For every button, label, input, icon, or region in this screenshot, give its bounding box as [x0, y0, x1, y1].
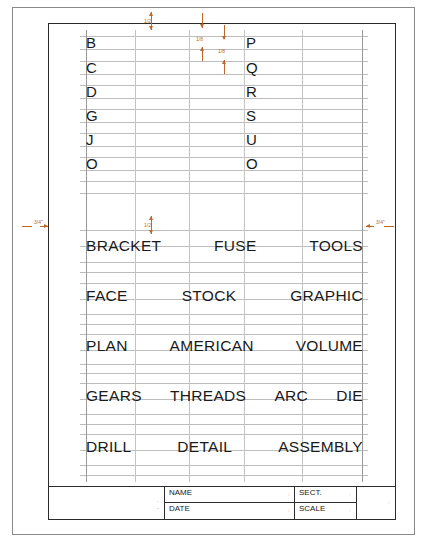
single-letter: C [86, 60, 97, 75]
guideline [80, 424, 368, 425]
guideline [80, 109, 368, 110]
guideline [80, 283, 368, 284]
practice-word: ARC [274, 388, 308, 404]
practice-word: AMERICAN [170, 338, 254, 354]
vertical-guide [362, 30, 363, 482]
practice-word: THREADS [170, 388, 246, 404]
dimension-label: 1/8 [218, 49, 225, 54]
title-block-divider [164, 502, 356, 503]
guideline [80, 230, 368, 231]
guideline [80, 181, 368, 182]
guideline [80, 262, 368, 263]
guideline [80, 122, 368, 123]
guideline [80, 334, 368, 335]
practice-word: PLAN [86, 338, 128, 354]
guideline [80, 373, 368, 374]
practice-word: ASSEMBLY [278, 439, 363, 455]
practice-word: TOOLS [309, 238, 363, 254]
guideline [80, 85, 368, 86]
guideline [80, 324, 368, 325]
word-row: FACESTOCKGRAPHIC [86, 288, 363, 304]
practice-word: DIE [336, 388, 363, 404]
practice-word: GRAPHIC [290, 288, 363, 304]
name-label: NAME [169, 488, 192, 497]
guideline [80, 272, 368, 273]
single-letter: P [246, 35, 256, 50]
dimension-label: 1/8 [196, 37, 203, 42]
guideline [80, 465, 368, 466]
word-row: PLANAMERICANVOLUME [86, 338, 363, 354]
dimension-label: 1/2 [144, 223, 151, 228]
date-field[interactable]: DATE [164, 503, 294, 519]
sect-label: SECT. [299, 488, 322, 497]
practice-word: DETAIL [177, 439, 232, 455]
dimension-label: 3/4" [34, 220, 43, 225]
single-letter: G [86, 108, 98, 123]
name-field[interactable]: NAME [164, 487, 294, 503]
title-block-blank-left [48, 487, 164, 519]
guideline [80, 98, 368, 99]
guideline [80, 193, 368, 194]
single-letter: O [246, 156, 258, 171]
guideline [80, 146, 368, 147]
practice-word: STOCK [182, 288, 237, 304]
dimension-label: 3/4" [376, 220, 385, 225]
word-row: GEARSTHREADSARCDIE [86, 388, 363, 404]
vertical-guide [302, 30, 303, 482]
guideline [80, 383, 368, 384]
guideline [80, 74, 368, 75]
single-letter: R [246, 84, 257, 99]
single-letter: D [86, 84, 97, 99]
single-letter: Q [246, 60, 258, 75]
practice-word: DRILL [86, 439, 131, 455]
vertical-guide [244, 30, 245, 482]
vertical-guide [135, 30, 136, 482]
scale-field[interactable]: SCALE [294, 503, 356, 519]
practice-word: GEARS [86, 388, 142, 404]
single-letter: J [86, 132, 94, 147]
guideline [80, 414, 368, 415]
word-row: BRACKETFUSETOOLS [86, 238, 363, 254]
title-block: . - NAME DATE : : SECT. SCALE : : : [48, 486, 396, 520]
scale-label: SCALE [299, 504, 325, 513]
single-letter: B [86, 35, 96, 50]
practice-word: BRACKET [86, 238, 161, 254]
guideline [80, 170, 368, 171]
single-letter: O [86, 156, 98, 171]
word-row: DRILLDETAILASSEMBLY [86, 439, 363, 455]
title-block-blank-right [356, 487, 396, 519]
guideline [80, 314, 368, 315]
practice-word: FACE [86, 288, 128, 304]
guideline [80, 133, 368, 134]
vertical-guide [189, 30, 190, 482]
practice-word: FUSE [214, 238, 257, 254]
date-label: DATE [169, 504, 190, 513]
dimension-label: 1/2 [144, 19, 151, 24]
guideline [80, 434, 368, 435]
sect-field[interactable]: SECT. [294, 487, 356, 503]
practice-word: VOLUME [296, 338, 363, 354]
single-letter: S [246, 108, 256, 123]
guideline [80, 475, 368, 476]
guideline [80, 157, 368, 158]
single-letter: U [246, 132, 257, 147]
guideline [80, 364, 368, 365]
